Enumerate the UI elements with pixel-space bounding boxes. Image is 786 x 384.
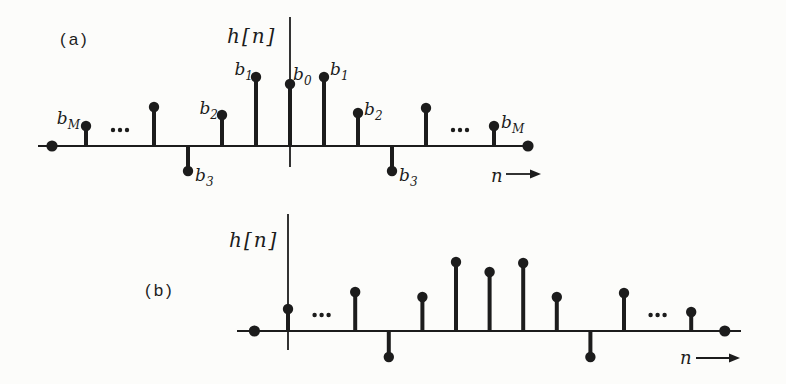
stem-dot — [350, 287, 360, 297]
panel-label-a: (a) — [60, 30, 90, 49]
ellipsis-dot — [111, 128, 115, 132]
zero-sample-dot — [522, 140, 533, 151]
stem-dot — [384, 352, 394, 362]
stem-dot — [183, 166, 193, 176]
axis-arrow-head-icon — [530, 170, 541, 179]
ellipsis-dot — [125, 128, 129, 132]
zero-sample-dot — [719, 325, 730, 336]
ellipsis-dot — [648, 313, 652, 317]
coefficient-label-M: bM — [57, 108, 81, 132]
ellipsis-dot — [458, 128, 462, 132]
stem-dot — [585, 352, 595, 362]
coefficient-label-M: bM — [501, 112, 525, 136]
panel-label-b: (b) — [145, 281, 175, 300]
ellipsis-dot — [662, 313, 666, 317]
stem-dot — [421, 103, 431, 113]
stem-panel-b: (b)h[n]n — [145, 214, 741, 368]
x-axis-label: n — [491, 165, 503, 186]
coefficient-label-0: b0 — [293, 64, 312, 88]
stem-dot — [686, 307, 696, 317]
axis-arrow-head-icon — [729, 354, 740, 363]
y-axis-label: h[n] — [227, 24, 276, 48]
coefficient-label-3: b3 — [195, 165, 214, 189]
ellipsis-dot — [451, 128, 455, 132]
coefficient-label-1: b1 — [330, 59, 349, 83]
stem-dot — [387, 166, 397, 176]
stem-dot — [518, 258, 528, 268]
stem-dot — [81, 121, 91, 131]
zero-sample-dot — [249, 325, 260, 336]
stem-dot — [619, 288, 629, 298]
stem-dot — [489, 121, 499, 131]
stem-dot — [149, 102, 159, 112]
stem-dot — [552, 292, 562, 302]
stem-dot — [417, 292, 427, 302]
stem-dot — [484, 267, 494, 277]
ellipsis-dot — [312, 313, 316, 317]
coefficient-label-2: b2 — [199, 98, 218, 122]
stem-dot — [451, 257, 461, 267]
figure-canvas: bMb3b2b1b0b1b2b3bM(a)h[n]n(b)h[n]n — [0, 0, 786, 384]
ellipsis-dot — [655, 313, 659, 317]
stem-dot — [217, 110, 227, 120]
zero-sample-dot — [46, 140, 57, 151]
ellipsis-dot — [118, 128, 122, 132]
x-axis-label: n — [680, 347, 692, 368]
coefficient-label-3: b3 — [399, 165, 418, 189]
coefficient-label-1: b1 — [234, 59, 253, 83]
stem-dot — [353, 108, 363, 118]
ellipsis-dot — [465, 128, 469, 132]
ellipsis-dot — [326, 313, 330, 317]
y-axis-label: h[n] — [229, 228, 278, 252]
stem-dot — [319, 72, 329, 82]
coefficient-label-2: b2 — [364, 99, 383, 123]
ellipsis-dot — [319, 313, 323, 317]
stem-panel-a: bMb3b2b1b0b1b2b3bM(a)h[n]n — [38, 17, 541, 189]
textbook-figure: bMb3b2b1b0b1b2b3bM(a)h[n]n(b)h[n]n — [0, 0, 786, 384]
stem-dot — [283, 304, 293, 314]
